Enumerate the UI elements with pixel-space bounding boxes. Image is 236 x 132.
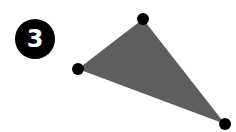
triangle-diagram [0,0,236,132]
vertex-point-3 [219,118,231,130]
vertex-point-2 [72,63,84,75]
triangle-shape [78,19,225,124]
vertex-point-1 [137,13,149,25]
